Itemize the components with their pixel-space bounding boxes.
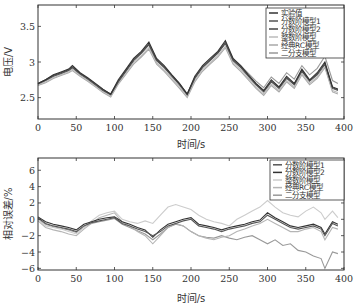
x-tick-label: 150 [144,122,162,133]
y-tick-label: −4 [21,247,35,258]
error-y-axis-label: 相对误差/% [2,188,14,241]
y-tick-label: −2 [21,230,35,241]
x-tick-label: 200 [182,273,200,284]
y-tick-label: 2 [29,197,35,208]
error-legend: 分数阶模型1分数阶模型2整数阶模型经典RC模型二分支模型 [270,160,344,200]
voltage-x-axis-label: 时间/s [177,138,206,150]
error-series-lines [38,201,338,269]
voltage-chart: 2.533.5 050100150200250300350400 电压/V 时间… [2,5,353,150]
y-tick-label: 0 [29,214,35,225]
x-tick-label: 100 [105,273,123,284]
x-tick-label: 200 [182,122,200,133]
series-line [38,213,338,238]
y-tick-label: 6 [29,165,35,176]
x-tick-label: 0 [35,273,41,284]
voltage-y-axis-label: 电压/V [2,47,14,77]
x-tick-label: 0 [35,122,41,133]
x-tick-label: 400 [335,273,353,284]
x-tick-label: 250 [220,273,238,284]
x-tick-label: 300 [258,273,276,284]
x-tick-label: 100 [105,122,123,133]
voltage-legend: 实验值分数阶模型1分数阶模型2整数阶模型经典RC模型二分支模型 [266,8,344,58]
y-tick-label: 3.5 [20,21,35,32]
x-tick-label: 250 [220,122,238,133]
x-tick-label: 150 [144,273,162,284]
x-tick-label: 50 [70,273,82,284]
y-tick-label: −6 [21,263,35,274]
x-tick-label: 50 [70,122,82,133]
x-tick-label: 300 [258,122,276,133]
y-tick-label: 2.5 [20,92,35,103]
error-chart: 6420−2−4−6 050100150200250300350400 相对误差… [2,158,353,304]
x-tick-label: 350 [297,273,315,284]
figure: 2.533.5 050100150200250300350400 电压/V 时间… [0,0,358,306]
x-tick-label: 400 [335,122,353,133]
x-tick-label: 350 [297,122,315,133]
y-tick-label: 4 [29,181,35,192]
error-x-axis-label: 时间/s [177,292,206,304]
y-tick-label: 3 [29,57,35,68]
legend-label: 二分支模型 [285,190,321,200]
legend-label: 二分支模型 [281,48,317,58]
